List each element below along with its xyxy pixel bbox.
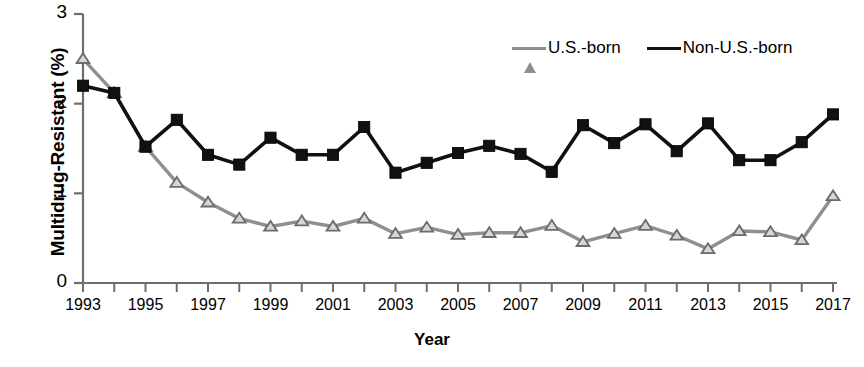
chart-legend: U.S.-born Non-U.S.-born xyxy=(512,38,792,58)
data-point-square xyxy=(296,149,307,160)
data-point-square xyxy=(765,155,776,166)
series-line-non-us-born xyxy=(83,86,833,173)
data-point-square xyxy=(452,147,463,158)
data-point-triangle xyxy=(77,53,90,63)
data-point-square xyxy=(140,141,151,152)
x-axis-title: Year xyxy=(0,330,864,350)
data-point-square xyxy=(671,146,682,157)
x-tick-label: 2009 xyxy=(553,296,613,314)
x-tick-label: 2013 xyxy=(678,296,738,314)
x-tick-label: 2001 xyxy=(303,296,363,314)
x-tick-label: 1993 xyxy=(53,296,113,314)
x-tick-label: 1997 xyxy=(178,296,238,314)
data-point-square xyxy=(609,138,620,149)
x-tick-label: 1995 xyxy=(116,296,176,314)
legend-item-us-born: U.S.-born xyxy=(512,38,621,58)
legend-swatch-non-us-born xyxy=(647,41,681,55)
data-point-square xyxy=(202,149,213,160)
data-point-triangle xyxy=(639,220,652,230)
x-tick-label: 2015 xyxy=(741,296,801,314)
data-point-square xyxy=(77,80,88,91)
data-point-triangle xyxy=(358,213,371,223)
data-point-square xyxy=(546,166,557,177)
data-point-square xyxy=(734,155,745,166)
y-axis-title: Multidrug-Resistant (%) xyxy=(47,2,69,302)
data-point-square xyxy=(234,159,245,170)
x-tick-label: 2017 xyxy=(803,296,863,314)
data-point-square xyxy=(640,119,651,130)
data-point-square xyxy=(171,114,182,125)
data-point-triangle xyxy=(827,190,840,200)
series-non-us-born xyxy=(77,80,838,178)
data-point-square xyxy=(827,109,838,120)
chart-container: Multidrug-Resistant (%) Year U.S.-born N… xyxy=(0,0,864,367)
data-point-square xyxy=(327,149,338,160)
data-point-square xyxy=(702,118,713,129)
x-tick-label: 2011 xyxy=(616,296,676,314)
y-tick-label: 1 xyxy=(33,180,67,202)
data-point-square xyxy=(109,87,120,98)
x-tick-label: 2005 xyxy=(428,296,488,314)
data-point-square xyxy=(796,137,807,148)
data-point-square xyxy=(577,120,588,131)
legend-label-non-us-born: Non-U.S.-born xyxy=(683,38,793,58)
x-tick-label: 1999 xyxy=(241,296,301,314)
x-tick-label: 2003 xyxy=(366,296,426,314)
y-tick-label: 3 xyxy=(33,1,67,23)
data-point-square xyxy=(484,140,495,151)
legend-swatch-us-born xyxy=(512,41,546,55)
data-point-square xyxy=(421,157,432,168)
y-tick-label: 2 xyxy=(33,91,67,113)
data-point-square xyxy=(359,121,370,132)
x-tick-label: 2007 xyxy=(491,296,551,314)
legend-item-non-us-born: Non-U.S.-born xyxy=(647,38,793,58)
data-point-square xyxy=(515,148,526,159)
data-point-square xyxy=(265,132,276,143)
y-tick-label: 0 xyxy=(33,270,67,292)
data-point-square xyxy=(390,167,401,178)
triangle-marker-icon xyxy=(524,43,536,73)
legend-label-us-born: U.S.-born xyxy=(548,38,621,58)
